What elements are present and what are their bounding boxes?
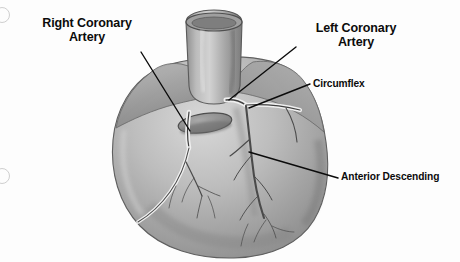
aorta-lumen	[192, 17, 236, 29]
figure-page: Right Coronary Artery Left Coronary Arte…	[0, 0, 460, 262]
label-anterior-descending: Anterior Descending	[341, 171, 439, 182]
aorta-group	[186, 10, 242, 104]
label-right-coronary-artery: Right Coronary Artery	[26, 16, 148, 44]
label-circumflex: Circumflex	[313, 78, 365, 89]
label-left-coronary-artery: Left Coronary Artery	[300, 21, 412, 49]
